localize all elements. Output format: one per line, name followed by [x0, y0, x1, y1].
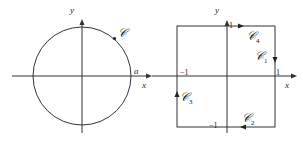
- curve-label: 𝒞: [118, 26, 130, 40]
- tick-x-pos: 1: [276, 68, 280, 77]
- segment-c4-label: 𝒞4: [247, 29, 260, 45]
- right-diagram: y x 1 1 −1 −1 𝒞4 𝒞1 𝒞3 𝒞2: [152, 5, 297, 133]
- tick-y-neg: −1: [209, 121, 218, 130]
- segment-c2-label: 𝒞2: [242, 111, 255, 127]
- y-axis-arrow-icon: [80, 19, 85, 25]
- c1-arrow-icon: [273, 57, 278, 63]
- c2-arrow-icon: [240, 125, 246, 130]
- c3-arrow-icon: [175, 91, 180, 97]
- left-diagram: y 𝒞 a x: [12, 5, 152, 133]
- radius-label: a: [134, 66, 139, 76]
- tick-x-neg: −1: [180, 68, 189, 77]
- x-axis-label: x: [141, 80, 146, 90]
- segment-c3-label: 𝒞3: [180, 90, 193, 106]
- diagram-canvas: y 𝒞 a x y x 1 1 −1 −1 𝒞4 𝒞1 𝒞3 𝒞2: [0, 0, 303, 143]
- x-axis-arrow-icon: [291, 74, 297, 79]
- x-axis-arrow-icon: [146, 74, 152, 79]
- c4-arrow-icon: [238, 24, 244, 29]
- tick-y-pos: 1: [229, 21, 233, 30]
- x-axis-label: x: [284, 80, 289, 90]
- segment-c1-label: 𝒞1: [255, 49, 268, 65]
- orientation-dot-icon: [113, 37, 116, 40]
- y-axis-label: y: [69, 5, 74, 15]
- y-axis-label: y: [214, 5, 219, 15]
